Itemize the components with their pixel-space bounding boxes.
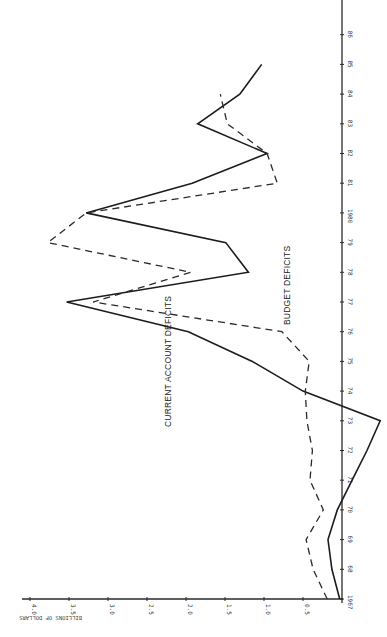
value-tick-label: 2.0: [187, 604, 194, 615]
value-ticks: 0.51.01.52.02.53.03.54.0: [30, 597, 311, 615]
year-tick-label: 69: [347, 536, 354, 544]
year-tick-label: 70: [347, 506, 354, 514]
deficits-chart: 0.51.01.52.02.53.03.54.0 196768697071727…: [0, 0, 387, 637]
value-tick-label: 1.5: [226, 604, 233, 615]
year-tick-label: 76: [347, 328, 354, 336]
year-tick-label: 81: [347, 179, 354, 187]
year-tick-label: 72: [347, 447, 354, 455]
value-tick-label: 2.5: [148, 604, 155, 615]
series: [48, 64, 380, 599]
year-tick-label: 68: [347, 565, 354, 573]
value-tick-label: 1.0: [265, 604, 272, 615]
budget-label: BUDGET DEFICITS: [282, 246, 292, 325]
value-tick-label: 3.5: [70, 604, 77, 615]
budget-line: [48, 94, 327, 599]
current-account-line: [67, 64, 381, 599]
year-tick-label: 1980: [347, 209, 354, 224]
current-account-label: CURRENT ACCOUNT DEFICITS: [163, 296, 173, 427]
year-tick-label: 77: [347, 298, 354, 306]
year-tick-label: 1967: [347, 595, 354, 610]
year-tick-label: 78: [347, 268, 354, 276]
y-axis-title: BILLIONS OF DOLLARS: [19, 615, 82, 621]
year-tick-label: 85: [347, 60, 354, 68]
year-tick-label: 75: [347, 357, 354, 365]
year-tick-label: 74: [347, 387, 354, 395]
year-tick-label: 82: [347, 150, 354, 158]
year-tick-label: 86: [347, 31, 354, 39]
year-tick-label: 79: [347, 239, 354, 247]
year-tick-label: 73: [347, 417, 354, 425]
value-tick-label: 0.5: [304, 604, 311, 615]
value-tick-label: 4.0: [31, 604, 38, 615]
value-tick-label: 3.0: [109, 604, 116, 615]
year-tick-label: 83: [347, 120, 354, 128]
year-tick-label: 84: [347, 90, 354, 98]
